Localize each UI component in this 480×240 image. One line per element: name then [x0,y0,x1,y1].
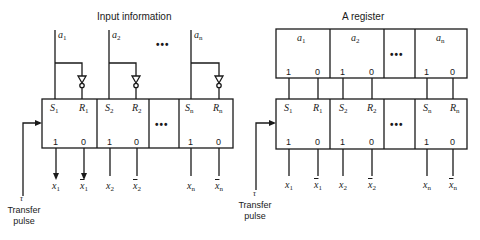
reg-an-label: an [436,33,445,43]
transfer-label: Transfer [5,206,43,215]
output-0-label: 0 [216,138,221,147]
reg-1-label: 1 [286,68,291,77]
input-a1-label: a1 [58,30,67,40]
reg-0-label: 0 [450,68,455,77]
output-0-label: 0 [134,138,139,147]
xn-bar-output: xn [449,180,457,190]
output-0-label: 0 [450,138,455,147]
reg-0-label: 0 [315,68,320,77]
a-register-title: A register [342,12,384,22]
reg-1-label: 1 [340,68,345,77]
output-1-label: 1 [188,138,193,147]
tau-label: τ [20,195,23,203]
ellipsis-mid-right: ••• [390,120,404,130]
arrow-icon [81,173,87,180]
input-information-title: Input information [97,12,172,22]
inverter-icon [132,76,140,88]
r2-label: R2 [132,103,142,113]
pulse-label: pulse [236,212,274,221]
reg-a1-label: a1 [297,33,306,43]
x1-output: x1 [52,181,60,191]
output-0-label: 0 [369,138,374,147]
s2-label: S2 [339,103,348,113]
ellipsis-register: ••• [390,50,404,60]
reg-0-label: 0 [369,68,374,77]
ellipsis-top: ••• [156,40,170,50]
x1-bar-output: x1 [314,180,322,190]
s2-label: S2 [105,103,114,113]
output-1-label: 1 [340,138,345,147]
output-0-label: 0 [315,138,320,147]
output-1-label: 1 [286,138,291,147]
x1-output: x1 [285,180,293,190]
reg-a2-label: a2 [351,33,360,43]
output-1-label: 1 [107,138,112,147]
output-1-label: 1 [53,138,58,147]
r2-label: R2 [367,103,377,113]
x2-output: x2 [339,180,347,190]
tau-label: τ [253,190,256,198]
xn-bar-output: xn [215,181,223,191]
rn-label: Rn [213,103,223,113]
pulse-label: pulse [5,217,43,226]
arrow-icon [269,120,276,126]
ellipsis-mid: ••• [155,120,169,130]
x1-bar-output: x1 [80,181,88,191]
r1-label: R1 [313,103,323,113]
arrow-icon [53,173,59,180]
sn-label: Sn [185,103,194,113]
input-an-label: an [194,30,203,40]
xn-output: xn [187,181,195,191]
s1-label: S1 [50,103,59,113]
transfer-label: Transfer [236,201,274,210]
s1-label: S1 [284,103,293,113]
reg-1-label: 1 [424,68,429,77]
x2-bar-output: x2 [133,181,141,191]
inverter-icon [78,76,86,88]
rn-label: Rn [450,103,460,113]
input-a2-label: a2 [112,30,121,40]
output-0-label: 0 [81,138,86,147]
sn-label: Sn [423,103,432,113]
r1-label: R1 [79,103,89,113]
inverter-icon [215,76,223,88]
xn-output: xn [423,180,431,190]
x2-bar-output: x2 [368,180,376,190]
arrow-icon [35,120,42,126]
output-1-label: 1 [424,138,429,147]
x2-output: x2 [106,181,114,191]
